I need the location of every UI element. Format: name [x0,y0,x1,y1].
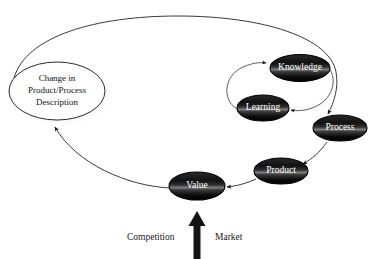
node-learning[interactable]: Learning [237,95,289,121]
node-process[interactable]: Process [313,115,367,141]
caption-competition: Competition [127,232,175,242]
knowledge-ellipse-body [270,55,330,82]
caption-market: Market [215,232,243,242]
edge-product-to-value [227,179,256,187]
node-value[interactable]: Value [169,172,225,200]
diagram-canvas: Change in Product/Process Description Kn… [0,0,375,259]
node-change-description[interactable]: Change in Product/Process Description [9,62,112,125]
learning-ellipse-body [237,95,289,121]
edge-process-to-product [303,142,327,164]
change-ellipse-body [9,62,105,120]
node-product[interactable]: Product [254,158,308,184]
value-cycle-diagram: Change in Product/Process Description Kn… [0,0,375,259]
node-knowledge[interactable]: Knowledge [270,55,330,82]
edge-value-to-change [55,127,170,188]
value-ellipse-body [169,172,225,200]
process-ellipse-body [313,115,367,141]
product-ellipse-body [254,158,308,184]
market-force-arrow [189,211,206,259]
